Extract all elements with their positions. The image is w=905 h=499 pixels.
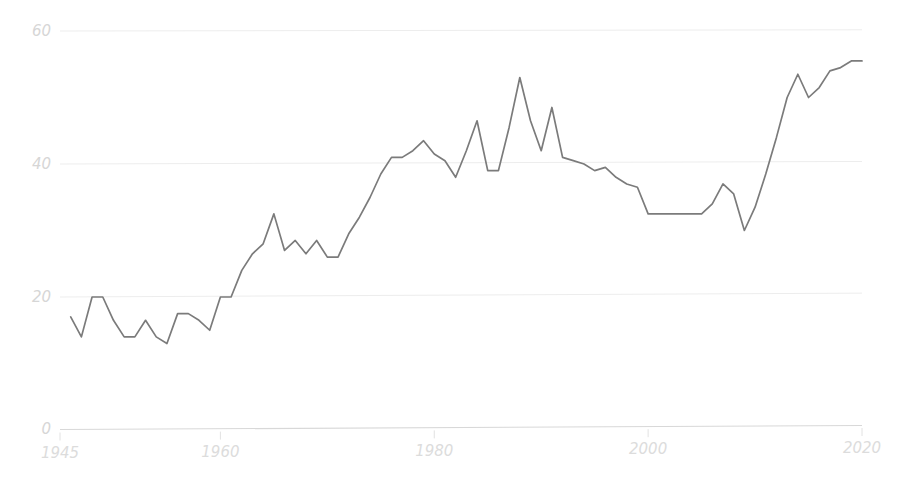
x-tick-label: 1980 (415, 442, 453, 460)
chart-container: 0204060 19451960198020002020 (0, 0, 905, 499)
series-line-1 (71, 61, 862, 344)
y-tick-label: 20 (32, 288, 51, 306)
x-axis-tick-labels: 19451960198020002020 (41, 439, 881, 462)
x-tick-label: 2020 (843, 439, 881, 457)
y-tick-label: 0 (41, 420, 51, 438)
gridline-60 (60, 30, 862, 31)
y-tick-label: 40 (32, 155, 51, 173)
line-chart: 0204060 19451960198020002020 (0, 0, 905, 499)
x-axis-baseline (60, 426, 862, 430)
x-tick-label: 2000 (629, 440, 667, 458)
x-tick-label: 1960 (201, 443, 239, 461)
x-tick-label: 1945 (41, 444, 79, 462)
y-axis-tick-labels: 0204060 (32, 22, 51, 438)
gridline-20 (60, 293, 862, 297)
data-series (71, 61, 862, 344)
x-axis (60, 426, 862, 441)
y-tick-label: 60 (32, 22, 51, 40)
